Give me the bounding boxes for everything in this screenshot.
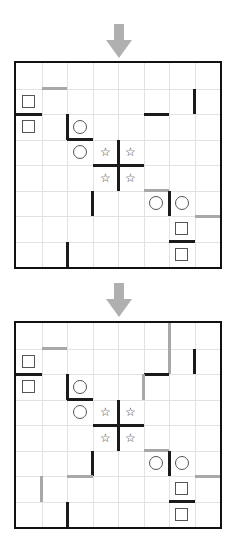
circle-icon [149,196,163,210]
grid-cells-top: ☆☆☆☆ [16,63,220,267]
wall-black-v[interactable] [193,89,196,115]
arrow-head [106,299,132,317]
star-icon: ☆ [100,432,111,444]
cell-symbol-square[interactable] [16,349,42,375]
wall-black-v[interactable] [193,349,196,375]
cell-symbol-square[interactable] [16,374,42,400]
square-icon [175,248,188,261]
wall-black-v[interactable] [66,502,69,528]
gridline-horizontal [16,114,220,115]
arrow-head [106,40,132,58]
cell-symbol-square[interactable] [169,216,195,242]
puzzle-grid-top[interactable]: ☆☆☆☆ [14,61,222,269]
wall-gray-v[interactable] [142,374,145,400]
wall-black-h[interactable] [144,373,170,376]
wall-gray-v[interactable] [168,323,171,374]
circle-icon [73,120,87,134]
cell-symbol-circle[interactable] [169,191,195,217]
wall-gray-h[interactable] [67,475,93,478]
star-icon: ☆ [100,406,111,418]
star-icon: ☆ [100,146,111,158]
wall-black-v[interactable] [66,242,69,268]
circle-icon [175,196,189,210]
square-icon [22,380,35,393]
wall-gray-h[interactable] [195,475,221,478]
cell-symbol-square[interactable] [16,114,42,140]
star-icon: ☆ [100,172,111,184]
cell-symbol-star[interactable]: ☆ [118,400,144,426]
cell-symbol-star[interactable]: ☆ [118,425,144,451]
grid-cells-bottom: ☆☆☆☆ [16,323,220,527]
wall-black-v[interactable] [91,451,94,477]
star-icon: ☆ [125,146,136,158]
cell-symbol-square[interactable] [169,502,195,528]
wall-gray-v[interactable] [40,476,43,502]
cell-symbol-star[interactable]: ☆ [93,400,119,426]
square-icon [175,508,188,521]
square-icon [175,482,188,495]
cell-symbol-circle[interactable] [67,374,93,400]
square-icon [175,222,188,235]
cell-symbol-square[interactable] [169,242,195,268]
cell-symbol-star[interactable]: ☆ [118,165,144,191]
cell-symbol-circle[interactable] [67,114,93,140]
cell-symbol-square[interactable] [16,89,42,115]
wall-black-v[interactable] [91,191,94,217]
cell-symbol-circle[interactable] [169,451,195,477]
cell-symbol-star[interactable]: ☆ [93,425,119,451]
cell-symbol-star[interactable]: ☆ [118,140,144,166]
circle-icon [175,456,189,470]
circle-icon [73,145,87,159]
puzzle-figure: ☆☆☆☆ ☆☆☆☆ [0,0,239,541]
circle-icon [149,456,163,470]
cell-symbol-circle[interactable] [67,140,93,166]
cell-symbol-circle[interactable] [67,400,93,426]
arrow-down-icon [106,24,132,58]
cell-symbol-square[interactable] [169,476,195,502]
wall-gray-h[interactable] [42,347,68,350]
square-icon [22,120,35,133]
wall-gray-h[interactable] [195,215,221,218]
star-icon: ☆ [125,172,136,184]
circle-icon [73,405,87,419]
gridline-horizontal [16,374,220,375]
cell-symbol-star[interactable]: ☆ [93,165,119,191]
cell-symbol-circle[interactable] [144,191,170,217]
arrow-down-icon [106,283,132,317]
cell-symbol-star[interactable]: ☆ [93,140,119,166]
wall-black-h[interactable] [144,113,170,116]
square-icon [22,355,35,368]
star-icon: ☆ [125,432,136,444]
cell-symbol-circle[interactable] [144,451,170,477]
puzzle-grid-bottom[interactable]: ☆☆☆☆ [14,321,222,529]
wall-gray-h[interactable] [42,87,68,90]
star-icon: ☆ [125,406,136,418]
square-icon [22,95,35,108]
circle-icon [73,380,87,394]
